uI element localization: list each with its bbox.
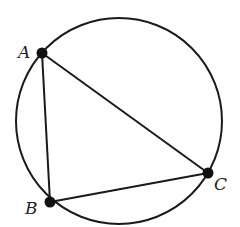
circumcircle	[16, 18, 222, 224]
segment-AB	[42, 53, 50, 202]
segment-BC	[50, 173, 208, 202]
label-C: C	[214, 174, 227, 194]
geometry-diagram: ABC	[0, 0, 240, 227]
triangle-sides	[42, 53, 208, 202]
vertices	[37, 48, 214, 208]
point-B	[45, 197, 56, 208]
point-C	[203, 168, 214, 179]
point-A	[37, 48, 48, 59]
label-B: B	[24, 198, 38, 218]
segment-AC	[42, 53, 208, 173]
label-A: A	[16, 42, 30, 62]
